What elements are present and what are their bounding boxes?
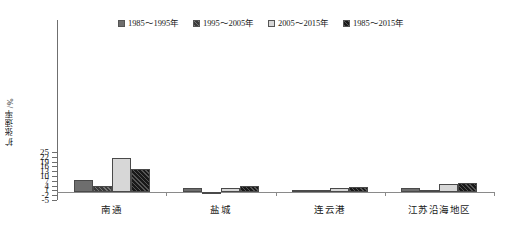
bar-3-1 [420, 190, 439, 192]
bar-0-0 [74, 180, 93, 192]
bar-1-3 [240, 186, 259, 192]
y-axis-title-text: 扩张速率/% [4, 98, 16, 146]
bar-group-1: 盐城 [166, 20, 275, 200]
bar-group-3: 江苏沿海地区 [385, 20, 494, 200]
bar-group-0: 南通 [57, 20, 166, 200]
x-axis-label-3: 江苏沿海地区 [379, 202, 499, 216]
x-axis-label-2: 连云港 [270, 202, 390, 216]
x-axis-label-0: 南通 [52, 202, 172, 216]
bar-2-1 [311, 190, 330, 192]
bar-2-2 [330, 188, 349, 192]
bar-2-3 [349, 187, 368, 192]
bar-3-3 [458, 183, 477, 192]
bar-0-2 [112, 158, 131, 192]
bar-1-1 [202, 192, 221, 194]
bar-3-0 [401, 188, 420, 192]
bar-2-0 [292, 190, 311, 192]
bar-0-3 [131, 169, 150, 192]
bar-1-2 [221, 188, 240, 192]
bar-group-2: 连云港 [276, 20, 385, 200]
y-tick-label--5: -5 [42, 194, 50, 206]
bar-0-1 [93, 186, 112, 192]
bar-chart: 1985～1995年 1995～2005年 2005～2015年 1985～20… [0, 0, 511, 243]
y-axis-title: 扩张速率/% [2, 0, 18, 243]
bar-3-2 [439, 184, 458, 192]
y-tick--5: -5 [52, 200, 57, 201]
plot-area: 252219161310741-2-5 南通盐城连云港江苏沿海地区 [57, 20, 494, 200]
bar-1-0 [183, 188, 202, 192]
x-tick-3 [494, 192, 495, 196]
x-axis-label-1: 盐城 [161, 202, 281, 216]
